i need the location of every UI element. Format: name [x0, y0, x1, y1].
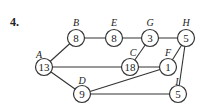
problem-number: 4. [10, 15, 19, 29]
node-value: 8 [73, 32, 79, 44]
node-a: 13A [35, 49, 53, 76]
node-c: 18C [122, 47, 139, 76]
node-label: E [110, 17, 117, 28]
node-h: 5H [178, 17, 195, 47]
node-value: 5 [183, 32, 189, 44]
node-label: G [146, 17, 153, 28]
node-value: 18 [125, 61, 137, 73]
node-value: 9 [79, 88, 85, 100]
node-label: B [73, 17, 79, 28]
node-label: A [35, 49, 43, 60]
node-value: 3 [147, 32, 153, 44]
node-label: I [174, 76, 179, 87]
node-b: 8B [68, 17, 85, 47]
node-label: C [130, 47, 137, 58]
node-label: F [164, 47, 172, 58]
node-d: 9D [74, 75, 91, 103]
node-value: 1 [165, 61, 171, 73]
node-label: D [77, 75, 86, 86]
node-i: 5I [170, 76, 187, 103]
node-value: 8 [111, 32, 117, 44]
nodes-layer: 13A8B8E3G5H18C1F9D5I [35, 17, 195, 103]
node-value: 5 [175, 88, 181, 100]
graph-canvas: 4. 13A8B8E3G5H18C1F9D5I [0, 0, 203, 104]
node-value: 13 [39, 61, 51, 73]
node-f: 1F [160, 47, 177, 76]
node-label: H [181, 17, 190, 28]
network-diagram: 4. 13A8B8E3G5H18C1F9D5I [0, 0, 203, 104]
node-e: 8E [106, 17, 123, 47]
node-g: 3G [142, 17, 159, 47]
